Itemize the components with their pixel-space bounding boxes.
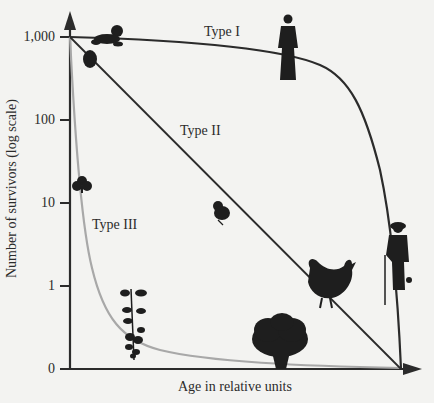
tree-icon (252, 313, 308, 369)
y-ticks (60, 37, 70, 369)
baby-icon (91, 25, 123, 47)
type-3-label: Type III (92, 217, 137, 233)
x-axis-label: Age in relative units (178, 379, 292, 395)
y-tick-label: 1 (5, 279, 55, 293)
elderly-woman-with-cane-icon (385, 222, 412, 305)
egg-icon (83, 50, 97, 68)
type-2-curve (70, 37, 401, 369)
y-axis-arrow-icon (64, 11, 76, 30)
chick-icon (213, 201, 230, 225)
seed-icon (72, 176, 92, 193)
woman-standing-icon (278, 15, 298, 81)
y-axis-label: Number of survivors (log scale) (4, 118, 20, 278)
chart-canvas (0, 0, 434, 403)
type-1-label: Type I (204, 24, 240, 40)
type-2-label: Type II (180, 123, 221, 139)
survivorship-chart: 1,000 100 10 1 0 Number of survivors (lo… (0, 0, 434, 403)
sapling-icon (120, 289, 147, 360)
y-tick-label: 1,000 (5, 30, 55, 44)
y-tick-label: 0 (5, 362, 55, 376)
x-axis-arrow-icon (403, 363, 422, 375)
